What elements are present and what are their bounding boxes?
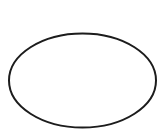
diagram-canvas [0,0,162,134]
ellipse-shape [9,34,156,128]
